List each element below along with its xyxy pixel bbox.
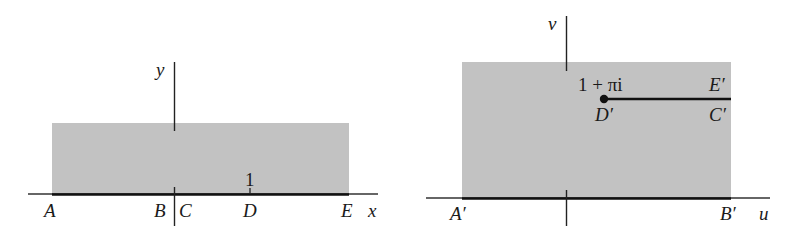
v-axis-label: v [548,13,557,34]
u-axis-label: u [759,203,769,224]
point-d-prime-dot [600,95,608,103]
point-label-D: D [242,200,257,221]
point-label-C: C [179,200,192,221]
point-label-A: A [42,200,56,221]
point-label-E: E [340,200,353,221]
point-value-label: 1 + πi [578,74,623,95]
point-label-B-prime: B′ [720,203,737,224]
point-label-A-prime: A′ [448,203,467,224]
z-plane-panel: y 1 A B C D E x [28,59,378,226]
point-label-E-prime: E′ [708,74,726,95]
point-label-C-prime: C′ [709,104,727,125]
y-axis-label: y [154,59,165,80]
z-plane-shaded-region [52,123,349,195]
point-label-D-prime: D′ [594,104,614,125]
x-axis-label: x [367,200,377,221]
w-plane-panel: v 1 + πi E′ D′ C′ A′ B′ u [426,13,770,226]
point-label-B: B [154,200,166,221]
tick-label-1: 1 [245,169,255,190]
conformal-map-figure: y 1 A B C D E x v 1 + πi E′ D′ C′ A′ B′ … [0,0,791,239]
